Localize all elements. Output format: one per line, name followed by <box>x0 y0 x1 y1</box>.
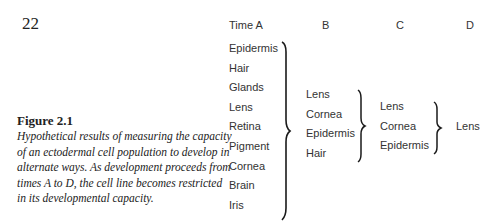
header-time-c: C <box>396 19 404 31</box>
list-item: Lens <box>456 117 480 137</box>
list-item: Epidermis <box>229 39 278 59</box>
column-time-a: Epidermis Hair Glands Lens Retina Pigmen… <box>229 39 278 215</box>
list-item: Lens <box>306 85 355 105</box>
figure-label: Figure 2.1 <box>17 113 232 129</box>
brace-b <box>356 88 368 164</box>
figure-caption-text: Hypothetical results of measuring the ca… <box>17 129 232 207</box>
list-item: Glands <box>229 78 278 98</box>
list-item: Hair <box>306 144 355 164</box>
column-time-d: Lens <box>456 117 480 137</box>
list-item: Retina <box>229 117 278 137</box>
list-item: Cornea <box>229 157 278 177</box>
list-item: Iris <box>229 196 278 216</box>
list-item: Epidermis <box>380 136 429 156</box>
column-time-b: Lens Cornea Epidermis Hair <box>306 85 355 163</box>
column-time-c: Lens Cornea Epidermis <box>380 97 429 156</box>
list-item: Cornea <box>306 105 355 125</box>
list-item: Cornea <box>380 117 429 137</box>
figure-caption: Figure 2.1 Hypothetical results of measu… <box>17 113 232 207</box>
brace-c <box>432 100 444 156</box>
list-item: Epidermis <box>306 124 355 144</box>
list-item: Pigment <box>229 137 278 157</box>
list-item: Hair <box>229 59 278 79</box>
brace-a <box>280 40 292 222</box>
header-time-b: B <box>322 19 329 31</box>
page-number: 22 <box>22 14 39 34</box>
list-item: Lens <box>229 98 278 118</box>
list-item: Lens <box>380 97 429 117</box>
header-time-a: Time A <box>229 19 263 31</box>
header-time-d: D <box>466 19 474 31</box>
list-item: Brain <box>229 176 278 196</box>
